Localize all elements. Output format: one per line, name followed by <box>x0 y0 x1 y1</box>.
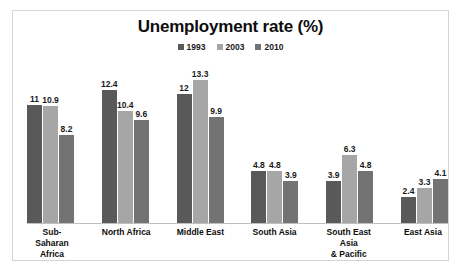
bar-wrapper: 10.4 <box>118 43 133 223</box>
bar-wrapper: 4.8 <box>267 43 282 223</box>
bar[interactable] <box>209 117 224 223</box>
bar[interactable] <box>118 111 133 223</box>
bar-value-label: 6.3 <box>344 144 356 154</box>
bar-value-label: 3.9 <box>285 170 297 180</box>
bar[interactable] <box>177 94 192 223</box>
bar-value-label: 2.4 <box>403 186 415 196</box>
bar[interactable] <box>433 179 448 223</box>
bar-value-label: 12.4 <box>101 79 118 89</box>
x-axis-label: North Africa <box>101 227 151 260</box>
bar-wrapper: 11 <box>27 43 42 223</box>
bar[interactable] <box>27 105 42 223</box>
bar[interactable] <box>251 171 266 223</box>
bar[interactable] <box>193 80 208 223</box>
x-axis-labels: Sub-Saharan AfricaNorth AfricaMiddle Eas… <box>27 227 448 260</box>
bar[interactable] <box>134 120 149 223</box>
bar-value-label: 4.1 <box>435 168 447 178</box>
bar-wrapper: 9.9 <box>209 43 224 223</box>
bar-wrapper: 3.9 <box>283 43 298 223</box>
bar[interactable] <box>267 171 282 223</box>
bar-wrapper: 6.3 <box>342 43 357 223</box>
bar-wrapper: 3.9 <box>326 43 341 223</box>
bar-value-label: 3.9 <box>328 170 340 180</box>
bar[interactable] <box>326 181 341 223</box>
bar-group: 1213.39.9 <box>177 43 224 223</box>
bar-wrapper: 10.9 <box>43 43 58 223</box>
bar-wrapper: 9.6 <box>134 43 149 223</box>
chart-plot-area: 1110.98.212.410.49.61213.39.94.84.83.93.… <box>27 43 448 223</box>
bar[interactable] <box>102 90 117 223</box>
bar-wrapper: 4.1 <box>433 43 448 223</box>
bar-wrapper: 12 <box>177 43 192 223</box>
bar-wrapper: 4.8 <box>251 43 266 223</box>
bar[interactable] <box>43 106 58 223</box>
bar[interactable] <box>342 155 357 223</box>
bar-wrapper: 13.3 <box>193 43 208 223</box>
bar-wrapper: 3.3 <box>417 43 432 223</box>
bar-group: 2.43.34.1 <box>401 43 448 223</box>
bar-value-label: 10.4 <box>117 100 134 110</box>
bar[interactable] <box>417 188 432 223</box>
bar-value-label: 8.2 <box>61 124 73 134</box>
x-axis-label: East Asia <box>398 227 448 260</box>
x-axis-label: South East Asia & Pacific <box>324 227 374 260</box>
bar-value-label: 11 <box>30 94 39 104</box>
bar-group: 1110.98.2 <box>27 43 74 223</box>
x-axis-line <box>27 223 448 224</box>
bar-value-label: 10.9 <box>42 95 59 105</box>
bar-wrapper: 2.4 <box>401 43 416 223</box>
chart-frame: Unemployment rate (%) 1993 2003 2010 111… <box>12 10 449 261</box>
bar-group: 4.84.83.9 <box>251 43 298 223</box>
bar-value-label: 12 <box>179 83 188 93</box>
bar[interactable] <box>401 197 416 223</box>
x-axis-label: Sub-Saharan Africa <box>27 227 77 260</box>
bar-value-label: 4.8 <box>269 160 281 170</box>
bar-value-label: 9.6 <box>135 109 147 119</box>
bar-wrapper: 4.8 <box>358 43 373 223</box>
bar-value-label: 3.3 <box>419 177 431 187</box>
bar-value-label: 13.3 <box>192 69 209 79</box>
bar-wrapper: 12.4 <box>102 43 117 223</box>
bar[interactable] <box>283 181 298 223</box>
bar-value-label: 9.9 <box>210 106 222 116</box>
x-axis-label: South Asia <box>250 227 300 260</box>
bar-group: 3.96.34.8 <box>326 43 373 223</box>
bar-group: 12.410.49.6 <box>102 43 149 223</box>
bar-value-label: 4.8 <box>360 160 372 170</box>
bar-wrapper: 8.2 <box>59 43 74 223</box>
bar[interactable] <box>59 135 74 223</box>
chart-title: Unemployment rate (%) <box>13 17 448 37</box>
x-axis-label: Middle East <box>175 227 225 260</box>
bar-value-label: 4.8 <box>253 160 265 170</box>
bar[interactable] <box>358 171 373 223</box>
